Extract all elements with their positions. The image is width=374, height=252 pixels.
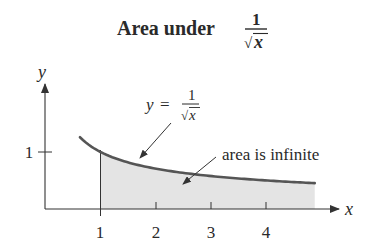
x-tick-label-1: 1 — [96, 223, 105, 242]
x-tick-label-2: 2 — [152, 223, 161, 242]
curve-label-arrow — [140, 123, 171, 158]
x-axis-label: x — [344, 199, 353, 219]
y-tick-label-1: 1 — [25, 143, 34, 162]
title-text: Area under — [117, 17, 215, 39]
curve-label-numerator: 1 — [188, 87, 196, 103]
x-tick-label-4: 4 — [262, 223, 271, 242]
curve-label-variable: x — [188, 107, 196, 123]
title-fraction-variable: x — [253, 32, 263, 52]
curve-label-y: y — [144, 95, 154, 114]
title-radical-sign: √ — [244, 35, 253, 51]
diagram-canvas: Area under 1 √ x y x 1 2 3 4 1 y = 1 √ x… — [0, 0, 374, 252]
y-axis-label: y — [36, 62, 46, 82]
x-tick-label-3: 3 — [207, 223, 216, 242]
curve-label-equals: = — [160, 95, 170, 114]
curve-label-radical: √ — [181, 108, 189, 123]
title-fraction-numerator: 1 — [252, 10, 261, 29]
area-label: area is infinite — [222, 145, 319, 164]
